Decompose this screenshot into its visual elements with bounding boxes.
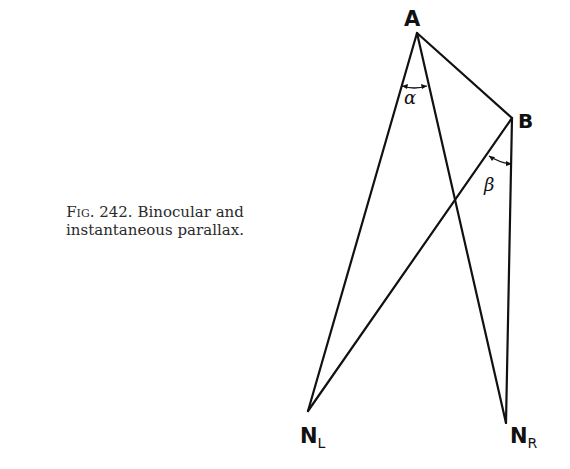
caption-number: 242. xyxy=(99,203,132,221)
line-a-nr xyxy=(417,33,506,423)
point-nl-label: NL xyxy=(300,424,326,451)
caption-prefix: Fig. xyxy=(66,203,94,221)
point-nr-main: N xyxy=(510,424,528,448)
caption-line-1: Fig. 242. Binocular and xyxy=(60,203,250,221)
point-nl-main: N xyxy=(300,424,318,448)
caption-text-1: Binocular and xyxy=(137,203,243,221)
caption-line-2: instantaneous parallax. xyxy=(60,221,250,239)
point-a-label: A xyxy=(404,7,421,31)
point-nr-sub: R xyxy=(528,435,538,451)
alpha-label: α xyxy=(404,87,416,108)
point-nl-sub: L xyxy=(318,435,326,451)
line-a-b xyxy=(417,33,512,118)
point-b-label: B xyxy=(518,109,533,133)
alpha-arrow-right xyxy=(421,84,427,89)
beta-label: β xyxy=(483,174,494,195)
point-nr-label: NR xyxy=(510,424,538,451)
line-b-nl xyxy=(308,118,512,411)
figure-caption: Fig. 242. Binocular and instantaneous pa… xyxy=(60,203,250,239)
line-a-nl xyxy=(308,33,417,411)
